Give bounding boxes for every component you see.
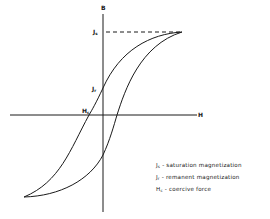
jr-marker-label: Jr	[92, 86, 96, 93]
hysteresis-diagram	[0, 0, 270, 219]
hc-marker-label: Hc	[82, 108, 89, 115]
legend-item-saturation: Js - saturation magnetization	[156, 163, 242, 169]
legend-item-remanent: Jr - remanent magnetization	[156, 175, 240, 181]
b-axis-label: B	[101, 5, 106, 11]
js-marker-label: Js	[93, 29, 98, 36]
legend-item-coercive: Hc - coercive force	[156, 187, 211, 193]
h-axis-label: H	[198, 112, 203, 118]
